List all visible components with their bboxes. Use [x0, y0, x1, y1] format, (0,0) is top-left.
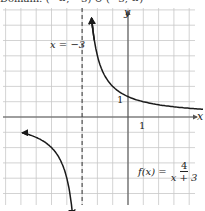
- y-tick-label-1: 1: [117, 95, 123, 105]
- x-tick-label-1: 1: [139, 121, 145, 131]
- curve-left-branch: [22, 133, 72, 211]
- y-axis-label: y: [124, 7, 130, 18]
- function-denominator: x + 3: [171, 172, 198, 183]
- function-label: f(x) = 4 x + 3: [138, 160, 197, 183]
- curve-left-arrow: [22, 133, 27, 134]
- x-axis-label: x: [197, 111, 203, 122]
- curve-right-branch: [92, 18, 203, 109]
- asymptote-label: x = −3: [50, 40, 85, 50]
- function-lhs: f(x) =: [138, 166, 167, 177]
- function-numerator: 4: [180, 160, 188, 172]
